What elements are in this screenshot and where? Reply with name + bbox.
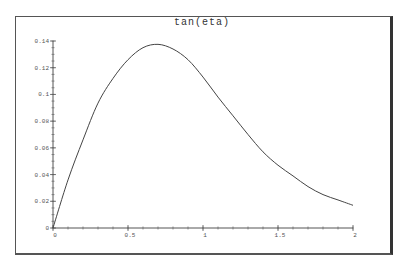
y-tick-label: 0.04 [35,172,50,179]
y-tick-label: 0.02 [35,198,50,205]
x-tick-label: 2 [353,232,357,239]
plot-area: 00.511.5200.020.040.060.080.10.120.14 [0,0,404,270]
y-tick-label: 0.08 [35,118,50,125]
y-tick-label: 0.1 [38,91,49,98]
y-tick-label: 0.14 [35,38,50,45]
y-tick-label: 0.12 [35,65,50,72]
data-line [53,44,353,228]
y-tick-label: 0 [45,225,49,232]
x-tick-label: 0 [53,232,57,239]
x-tick-label: 0.5 [125,232,136,239]
y-tick-label: 0.06 [35,145,50,152]
x-tick-label: 1.5 [275,232,286,239]
x-tick-label: 1 [203,232,207,239]
